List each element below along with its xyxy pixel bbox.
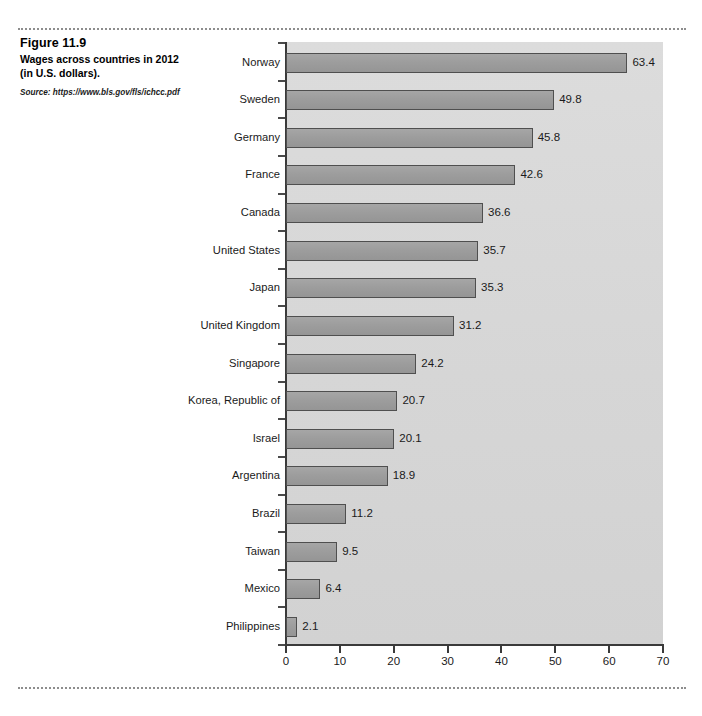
bar <box>286 504 346 524</box>
y-axis-tick <box>278 644 285 646</box>
x-axis-tick <box>285 646 287 653</box>
bar-value-label: 35.7 <box>483 244 505 256</box>
y-axis-tick <box>278 42 285 44</box>
category-label: Singapore <box>80 357 280 369</box>
x-axis-tick-label: 40 <box>481 655 521 667</box>
y-axis-tick <box>278 531 285 533</box>
y-axis-tick <box>278 494 285 496</box>
bar <box>286 316 454 336</box>
bar <box>286 53 627 73</box>
x-axis-line <box>285 644 664 646</box>
x-axis-tick <box>608 646 610 653</box>
category-label: Israel <box>80 432 280 444</box>
category-label: Taiwan <box>80 545 280 557</box>
x-axis-tick <box>662 646 664 653</box>
bar <box>286 278 476 298</box>
category-label: Japan <box>80 281 280 293</box>
bar-value-label: 45.8 <box>538 131 560 143</box>
x-axis-tick-label: 70 <box>643 655 683 667</box>
bar-value-label: 35.3 <box>481 281 503 293</box>
category-label: Sweden <box>80 93 280 105</box>
figure-page: Figure 11.9 Wages across countries in 20… <box>0 0 702 716</box>
bar <box>286 241 478 261</box>
category-label: Norway <box>80 56 280 68</box>
bar-value-label: 20.1 <box>399 432 421 444</box>
y-axis-tick <box>278 343 285 345</box>
bar-value-label: 42.6 <box>520 168 542 180</box>
category-label: Philippines <box>80 620 280 632</box>
bar-value-label: 36.6 <box>488 206 510 218</box>
y-axis-tick <box>278 193 285 195</box>
y-axis-tick <box>278 80 285 82</box>
bar-value-label: 2.1 <box>302 620 318 632</box>
bar-value-label: 11.2 <box>351 507 373 519</box>
bar-value-label: 24.2 <box>421 357 443 369</box>
category-label: United Kingdom <box>80 319 280 331</box>
category-label: France <box>80 168 280 180</box>
bar <box>286 617 297 637</box>
bar-value-label: 20.7 <box>402 394 424 406</box>
category-label: Germany <box>80 131 280 143</box>
bar-value-label: 49.8 <box>559 93 581 105</box>
bar-chart: Norway63.4Sweden49.8Germany45.8France42.… <box>0 0 702 700</box>
bar-value-label: 9.5 <box>342 545 358 557</box>
y-axis-tick <box>278 418 285 420</box>
x-axis-tick-label: 10 <box>320 655 360 667</box>
x-axis-tick-label: 30 <box>428 655 468 667</box>
bar <box>286 354 416 374</box>
y-axis-tick <box>278 155 285 157</box>
bar <box>286 542 337 562</box>
y-axis-tick <box>278 569 285 571</box>
bar <box>286 429 394 449</box>
x-axis-tick <box>447 646 449 653</box>
bar <box>286 203 483 223</box>
x-axis-tick <box>554 646 556 653</box>
bar-value-label: 31.2 <box>459 319 481 331</box>
category-label: Korea, Republic of <box>80 394 280 406</box>
y-axis-tick <box>278 456 285 458</box>
x-axis-tick <box>500 646 502 653</box>
bar-value-label: 6.4 <box>325 582 341 594</box>
category-label: United States <box>80 244 280 256</box>
x-axis-tick-label: 20 <box>374 655 414 667</box>
bar <box>286 391 397 411</box>
x-axis-tick-label: 60 <box>589 655 629 667</box>
bar <box>286 466 388 486</box>
y-axis-tick <box>278 381 285 383</box>
bar <box>286 165 515 185</box>
bar <box>286 90 554 110</box>
bar-value-label: 63.4 <box>632 56 654 68</box>
x-axis-tick-label: 50 <box>535 655 575 667</box>
bar <box>286 128 533 148</box>
bar-value-label: 18.9 <box>393 469 415 481</box>
category-label: Mexico <box>80 582 280 594</box>
x-axis-tick-label: 0 <box>266 655 306 667</box>
category-label: Canada <box>80 206 280 218</box>
y-axis-tick <box>278 305 285 307</box>
y-axis-tick <box>278 606 285 608</box>
y-axis-tick <box>278 268 285 270</box>
category-label: Argentina <box>80 469 280 481</box>
bar <box>286 579 320 599</box>
x-axis-tick <box>393 646 395 653</box>
x-axis-tick <box>339 646 341 653</box>
y-axis-tick <box>278 117 285 119</box>
category-label: Brazil <box>80 507 280 519</box>
y-axis-tick <box>278 230 285 232</box>
